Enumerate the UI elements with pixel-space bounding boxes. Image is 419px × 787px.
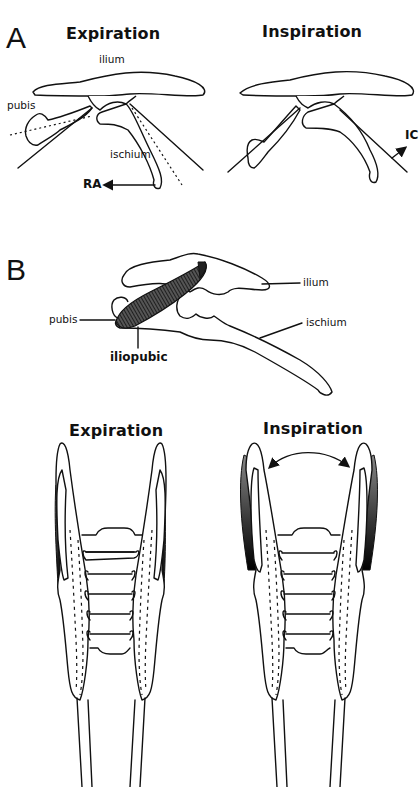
ilium-bone (240, 72, 413, 96)
label-ischium-a: ischium (110, 148, 151, 160)
label-pubis-a: pubis (7, 99, 35, 111)
label-ischium-b: ischium (306, 316, 347, 328)
leader-line-ilium (262, 283, 300, 284)
tail-left (272, 698, 277, 787)
tail-left (77, 698, 82, 787)
title-expiration-b: Expiration (69, 421, 163, 440)
label-ra: RA (83, 177, 102, 191)
tail-left (88, 700, 92, 787)
pelvis-inspiration-lateral (228, 72, 413, 183)
title-inspiration-b: Inspiration (263, 419, 363, 438)
pubis-bone (25, 106, 92, 145)
pelvis-expiration-lateral (10, 72, 205, 188)
tail-right (340, 698, 345, 787)
leader-line-ischium (260, 323, 302, 338)
panel-label-a: A (6, 21, 26, 55)
label-ilium-a: ilium (99, 53, 125, 65)
pelvis-lateral-with-muscle (80, 253, 332, 395)
label-pubis-b: pubis (49, 313, 77, 325)
label-ilium-b: ilium (303, 276, 329, 288)
pelvis-inspiration-dorsal (241, 443, 378, 787)
label-iliopubic: iliopubic (110, 350, 168, 364)
vertebrae (278, 528, 340, 654)
title-expiration-a: Expiration (66, 24, 160, 43)
ischium-bone (97, 104, 162, 189)
panel-label-b: B (6, 253, 26, 287)
ilium-bone (33, 72, 205, 96)
ischium-bone (302, 104, 378, 183)
label-ic: IC (405, 128, 418, 142)
ic-arrow (392, 148, 405, 158)
axis-line (228, 108, 300, 172)
tail-left (283, 700, 287, 787)
tail-right (140, 698, 145, 787)
figure-canvas (0, 0, 419, 787)
abduction-arrow (270, 453, 348, 467)
title-inspiration-a: Inspiration (262, 22, 362, 41)
tail-right (330, 700, 335, 787)
vertebrae (82, 528, 142, 654)
tail-right (130, 700, 135, 787)
pelvis-expiration-dorsal (55, 443, 166, 787)
